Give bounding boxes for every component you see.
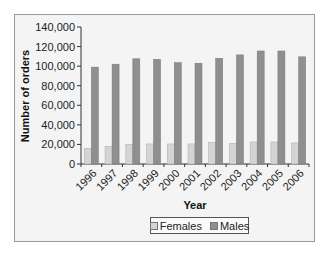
x-tick-label: 2005 [260,167,286,193]
bar-females [188,144,195,164]
legend-label-females: Females [160,220,202,232]
bar-females [126,144,133,164]
bar-males [133,59,140,164]
x-tick-label: 2004 [239,167,265,193]
bar-males [112,64,119,164]
bar-females [147,144,154,164]
males-swatch-icon [210,222,218,230]
x-tick-label: 2001 [177,167,203,193]
y-tick-label: 60,000 [41,99,75,111]
bar-males [299,57,306,164]
females-swatch-icon [150,222,158,230]
y-tick-label: 120,000 [35,41,75,53]
y-tick-label: 140,000 [35,21,75,33]
bar-males [257,51,264,164]
x-tick-label: 2000 [156,167,182,193]
x-tick-label: 1999 [135,167,161,193]
bar-females [292,143,299,164]
x-tick-label: 2006 [280,167,306,193]
y-tick-label: 100,000 [35,60,75,72]
y-tick-label: 0 [69,158,75,170]
legend: Females Males [150,217,249,234]
x-axis-title: Year [183,199,207,211]
y-tick-label: 80,000 [41,80,75,92]
x-tick-label: 2002 [197,167,223,193]
x-tick-label: 1997 [94,167,120,193]
x-tick-label: 1998 [114,167,140,193]
legend-item-females: Females [150,220,202,232]
y-tick-label: 40,000 [41,119,75,131]
x-tick-label: 2003 [218,167,244,193]
bar-females [167,144,174,164]
x-tick-label: 1996 [73,167,99,193]
legend-label-males: Males [220,220,249,232]
bar-females [84,148,91,164]
y-axis: 020,00040,00060,00080,000100,000120,0001… [35,21,81,170]
bar-males [216,58,223,164]
bar-males [278,51,285,164]
y-tick-label: 20,000 [41,138,75,150]
y-axis-title: Number of orders [19,50,31,142]
bar-males [154,59,161,164]
bar-females [229,143,236,164]
legend-item-males: Males [210,220,249,232]
bar-males [174,63,181,164]
bar-males [91,67,98,164]
bar-females [271,142,278,164]
bar-males [195,63,202,164]
x-axis: 1996199719981999200020012002200320042005… [73,164,309,193]
bars [84,51,305,164]
bar-males [236,55,243,164]
bar-females [105,146,112,164]
bar-females [250,142,257,164]
bar-females [209,142,216,164]
